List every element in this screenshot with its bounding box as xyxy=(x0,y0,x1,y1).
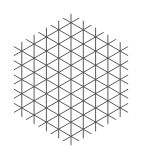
hexagram-lattice-svg: Hexagram star tessellation Interlocking … xyxy=(0,0,142,159)
hexagram-tessellation-figure: Hexagram star tessellation Interlocking … xyxy=(0,0,142,159)
